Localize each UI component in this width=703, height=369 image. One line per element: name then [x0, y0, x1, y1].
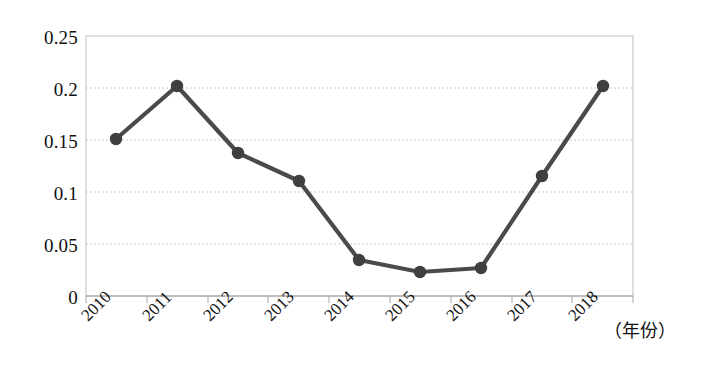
- data-point: [110, 133, 122, 145]
- data-point: [171, 80, 183, 92]
- plot-area: [0, 0, 703, 369]
- data-point: [536, 170, 548, 182]
- data-point: [232, 147, 244, 159]
- line-chart: 0.25 0.2 0.15 0.1 0.05 0: [0, 0, 703, 369]
- data-point: [293, 175, 305, 187]
- x-axis-title: （年份）: [604, 322, 676, 340]
- data-point-markers: [110, 80, 609, 278]
- data-point: [414, 266, 426, 278]
- data-point: [597, 80, 609, 92]
- data-point: [353, 254, 365, 266]
- data-point: [475, 262, 487, 274]
